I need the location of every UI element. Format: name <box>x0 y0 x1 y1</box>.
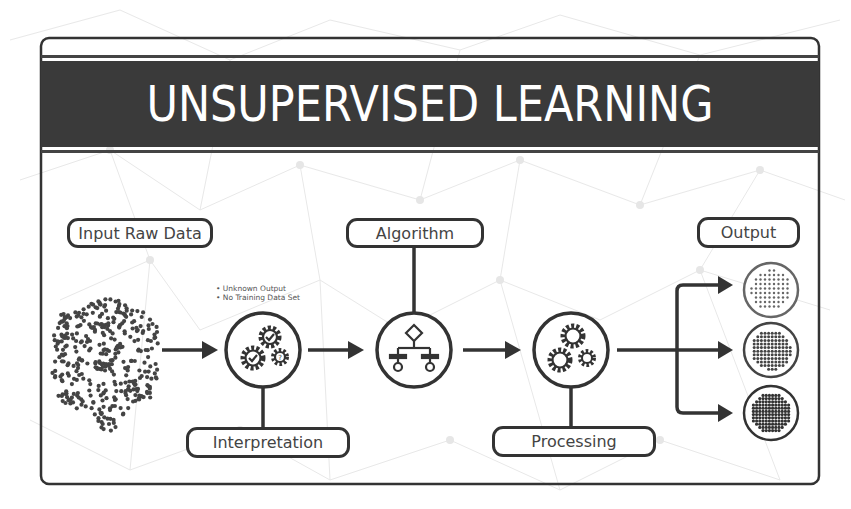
processing-node <box>534 313 608 387</box>
raw-data-scatter <box>50 297 159 433</box>
background-nodes <box>106 146 764 444</box>
note-no-training-data: • No Training Data Set <box>216 293 300 302</box>
page-title: UNSUPERVISED LEARNING <box>96 62 763 146</box>
label-interpretation: Interpretation <box>186 427 350 458</box>
label-algorithm: Algorithm <box>346 218 484 248</box>
interpretation-notes: • Unknown Output • No Training Data Set <box>216 284 300 302</box>
label-processing: Processing <box>492 426 656 457</box>
output-cluster-sparse <box>744 263 798 317</box>
note-unknown-output: • Unknown Output <box>216 284 300 293</box>
algorithm-node <box>377 313 451 387</box>
interpretation-node: ? <box>226 313 300 387</box>
label-output: Output <box>697 217 800 248</box>
output-cluster-dense <box>744 386 798 440</box>
output-cluster-medium <box>744 323 798 377</box>
label-input-raw-data: Input Raw Data <box>67 218 213 248</box>
question-mark-icon: ? <box>278 354 282 362</box>
